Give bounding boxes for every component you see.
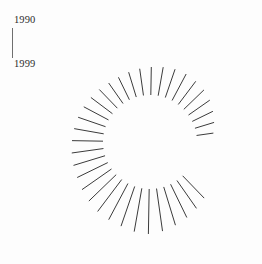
- spoke: [84, 107, 109, 120]
- spoke: [78, 117, 105, 126]
- spoke: [164, 187, 176, 225]
- spoke: [89, 175, 116, 201]
- spoke: [72, 149, 104, 153]
- spoke: [157, 189, 163, 232]
- spoke: [129, 72, 137, 97]
- spoke: [192, 111, 213, 121]
- spoke: [171, 184, 187, 217]
- spoke: [72, 141, 103, 142]
- spoke: [140, 69, 144, 96]
- spoke: [109, 83, 123, 103]
- spoke: [118, 77, 129, 99]
- spoke-group: [72, 67, 214, 234]
- spoke: [98, 180, 122, 212]
- spoke: [197, 133, 214, 135]
- spoke: [82, 169, 111, 190]
- spoke: [148, 189, 149, 234]
- page-root: 1990 1999: [0, 0, 262, 264]
- spoke: [74, 129, 104, 134]
- spoke: [74, 156, 106, 166]
- spoke: [165, 69, 175, 97]
- spoke: [134, 188, 142, 231]
- spoke: [195, 122, 214, 128]
- radial-spoke-chart: [0, 0, 262, 264]
- spoke: [158, 67, 163, 96]
- spoke: [183, 176, 205, 198]
- chart-canvas: [0, 0, 262, 264]
